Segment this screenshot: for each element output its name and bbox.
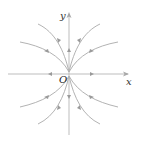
flow-arrow-icon [67, 95, 71, 99]
trajectory-lower-right-shallow [69, 76, 118, 107]
trajectory-upper-right-shallow [69, 42, 118, 72]
phase-portrait-figure: y x O [0, 0, 142, 143]
origin-label: O [59, 74, 67, 85]
trajectory-upper-left-shallow [20, 42, 69, 72]
y-axis-label: y [59, 10, 66, 21]
x-axis-label: x [126, 76, 132, 87]
flow-arrow-icon [90, 72, 94, 76]
flow-arrow-icon [67, 48, 71, 52]
flow-arrow-icon [48, 72, 52, 76]
